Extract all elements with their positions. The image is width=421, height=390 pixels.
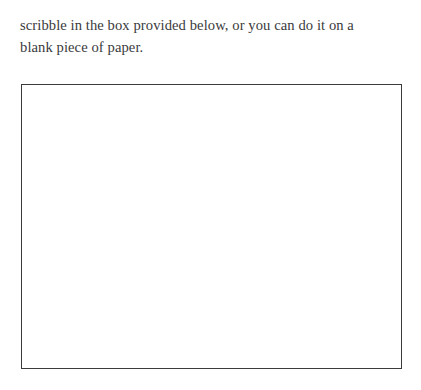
document-page: scribble in the box provided below, or y… <box>0 0 421 390</box>
answer-box-content[interactable] <box>22 85 401 368</box>
instruction-paragraph: scribble in the box provided below, or y… <box>20 14 405 58</box>
instruction-line-1: scribble in the box provided below, or y… <box>20 14 405 36</box>
answer-box[interactable] <box>21 84 402 369</box>
instruction-line-2: blank piece of paper. <box>20 36 405 58</box>
